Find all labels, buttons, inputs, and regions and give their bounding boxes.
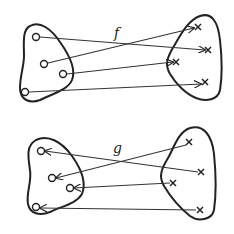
arrow-g-4	[40, 208, 196, 210]
codomain-point	[33, 204, 40, 211]
codomain-set-f	[167, 15, 221, 100]
label-f: f	[113, 25, 122, 41]
codomain-point	[195, 24, 201, 30]
label-g: g	[113, 140, 122, 156]
codomain-point	[49, 175, 56, 182]
domain-point	[198, 169, 204, 175]
arrow-f-4	[29, 84, 201, 92]
codomain-point	[205, 47, 211, 53]
mapping-diagram: f g	[0, 0, 234, 234]
mapping-g: g	[28, 127, 216, 219]
mapping-f: f	[20, 15, 222, 101]
arrow-f-2	[48, 28, 194, 63]
domain-point	[186, 139, 192, 145]
arrow-g-3	[74, 183, 170, 188]
domain-point	[60, 71, 67, 78]
domain-point	[22, 89, 29, 96]
domain-point	[170, 180, 176, 186]
codomain-point	[38, 148, 45, 155]
codomain-point	[67, 185, 74, 192]
domain-point	[41, 61, 48, 68]
diagram-svg: f g	[0, 0, 234, 234]
codomain-point	[202, 79, 208, 85]
arrow-f-3	[67, 62, 173, 74]
codomain-point	[173, 59, 179, 65]
domain-point	[33, 34, 40, 41]
domain-point	[197, 207, 203, 213]
